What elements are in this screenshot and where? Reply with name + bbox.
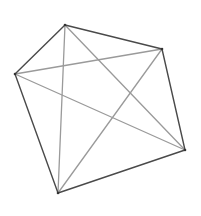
pentagon-diagram bbox=[0, 0, 201, 216]
vertex-top bbox=[64, 24, 67, 27]
diagonal-top-to-bottom bbox=[58, 25, 65, 193]
edge-top-to-right bbox=[65, 25, 162, 49]
diagonals bbox=[15, 25, 185, 193]
vertex-bottom bbox=[57, 192, 60, 195]
complete-graph-svg bbox=[0, 0, 201, 216]
diagonal-bottom-right-to-left bbox=[15, 74, 185, 150]
edge-right-to-bottom-right bbox=[162, 49, 185, 150]
edge-bottom-to-left bbox=[15, 74, 58, 193]
diagonal-right-to-bottom bbox=[58, 49, 162, 193]
vertex-bottom-right bbox=[184, 149, 187, 152]
vertex-right bbox=[161, 48, 164, 51]
outer-edges bbox=[15, 25, 185, 193]
edge-bottom-right-to-bottom bbox=[58, 150, 185, 193]
vertex-left bbox=[14, 73, 17, 76]
diagonal-top-to-bottom-right bbox=[65, 25, 185, 150]
